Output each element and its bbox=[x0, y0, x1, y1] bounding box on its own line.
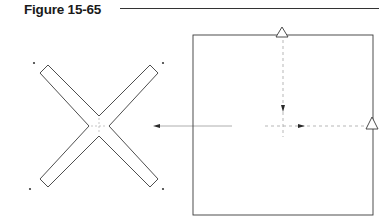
transform-arrow bbox=[153, 124, 232, 128]
triangle-marker-right-icon bbox=[366, 117, 378, 129]
arrowhead-right-icon bbox=[298, 124, 305, 128]
arrowhead-left-icon bbox=[153, 124, 160, 128]
cross-center-mark bbox=[91, 118, 107, 134]
hole-bottom-left bbox=[29, 188, 31, 190]
fold-guides bbox=[265, 40, 368, 137]
hole-top-left bbox=[33, 62, 35, 64]
arrowhead-down-icon bbox=[281, 105, 285, 112]
hole-bottom-right bbox=[162, 188, 164, 190]
triangle-marker-top-icon bbox=[276, 27, 288, 37]
diagram-canvas bbox=[0, 0, 392, 222]
hole-top-right bbox=[162, 62, 164, 64]
